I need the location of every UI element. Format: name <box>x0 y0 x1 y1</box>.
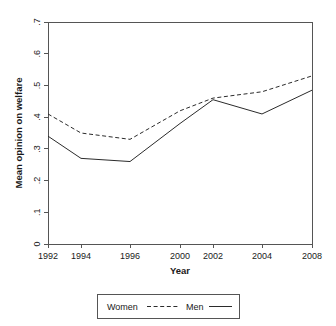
y-tick-label-7: .7 <box>32 18 42 26</box>
chart-legend: Women Men <box>97 294 239 318</box>
y-tick-label-0: 0 <box>32 241 42 246</box>
series-line-men <box>48 90 312 161</box>
x-tick-label-2008: 2008 <box>302 251 322 261</box>
y-tick-label-5: .5 <box>32 82 42 90</box>
legend-label-women: Women <box>107 302 138 312</box>
x-axis-ticks <box>48 244 312 248</box>
x-tick-label-1996: 1996 <box>120 251 140 261</box>
x-tick-label-2000: 2000 <box>170 251 190 261</box>
legend-label-men: Men <box>186 302 204 312</box>
x-tick-label-2002: 2002 <box>203 251 223 261</box>
y-tick-label-2: .2 <box>32 177 42 185</box>
line-chart: 0 .1 .2 .3 .4 .5 .6 .7 Mean opinion on w… <box>0 0 336 326</box>
plot-axes <box>48 22 312 244</box>
x-tick-label-1992: 1992 <box>38 251 58 261</box>
series-line-women <box>48 76 312 139</box>
y-tick-label-1: .1 <box>32 209 42 217</box>
x-tick-label-1994: 1994 <box>71 251 91 261</box>
y-axis-tick-labels: 0 .1 .2 .3 .4 .5 .6 .7 <box>32 18 42 246</box>
y-axis-ticks <box>44 22 48 244</box>
y-tick-label-3: .3 <box>32 145 42 153</box>
x-axis-title: Year <box>170 265 190 276</box>
data-series-group <box>48 76 312 162</box>
y-tick-label-4: .4 <box>32 113 42 121</box>
x-axis-tick-labels: 1992 1994 1996 2000 2002 2004 2008 <box>38 251 322 261</box>
y-axis-title: Mean opinion on welfare <box>13 78 24 189</box>
chart-figure: 0 .1 .2 .3 .4 .5 .6 .7 Mean opinion on w… <box>0 0 336 326</box>
x-tick-label-2004: 2004 <box>252 251 272 261</box>
y-tick-label-6: .6 <box>32 50 42 58</box>
